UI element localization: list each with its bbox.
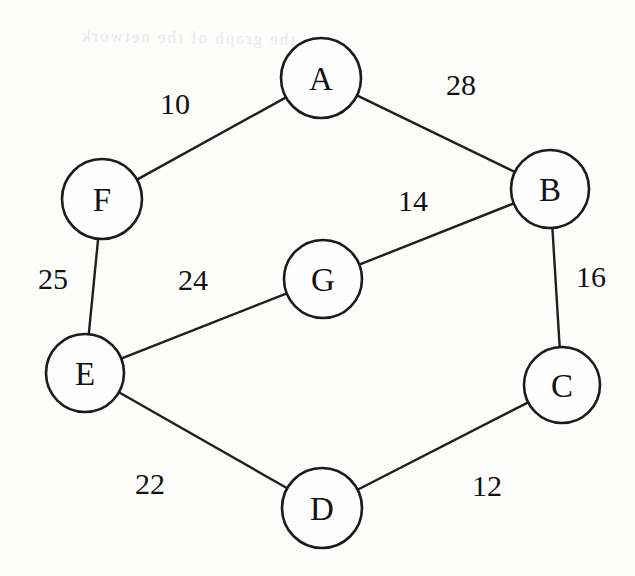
node-label-c: C xyxy=(551,368,573,404)
edge-weight-eg: 24 xyxy=(178,263,208,296)
graph-node-e[interactable]: E xyxy=(46,334,124,412)
node-label-b: B xyxy=(539,172,561,208)
graph-node-d[interactable]: D xyxy=(282,468,362,548)
node-label-f: F xyxy=(93,182,111,218)
node-label-d: D xyxy=(310,491,334,527)
graph-figure: the graph of the network ABCDEFG 1028141… xyxy=(0,0,635,576)
graph-edge-bg xyxy=(360,204,514,265)
edge-weight-af: 10 xyxy=(160,87,190,120)
node-label-a: A xyxy=(309,61,333,97)
node-label-g: G xyxy=(311,262,335,298)
graph-node-c[interactable]: C xyxy=(524,347,600,423)
graph-edge-ab xyxy=(357,96,514,172)
edge-weight-bg: 14 xyxy=(398,184,428,217)
edge-weight-cd: 12 xyxy=(472,469,502,502)
graph-canvas: ABCDEFG 1028141612222425 xyxy=(0,0,635,576)
node-label-e: E xyxy=(75,356,95,392)
edge-weight-ef: 25 xyxy=(38,262,68,295)
graph-edge-eg xyxy=(122,294,287,359)
edge-weight-de: 22 xyxy=(135,467,165,500)
graph-edge-bc xyxy=(552,228,559,346)
graph-edge-ef xyxy=(89,239,98,333)
graph-node-g[interactable]: G xyxy=(284,240,362,318)
edge-weight-ab: 28 xyxy=(446,68,476,101)
graph-node-b[interactable]: B xyxy=(511,150,589,228)
graph-node-a[interactable]: A xyxy=(281,38,361,118)
graph-node-f[interactable]: F xyxy=(62,159,142,239)
nodes-layer: ABCDEFG xyxy=(46,38,600,548)
edge-weight-bc: 16 xyxy=(576,260,606,293)
graph-edge-cd xyxy=(358,403,528,490)
